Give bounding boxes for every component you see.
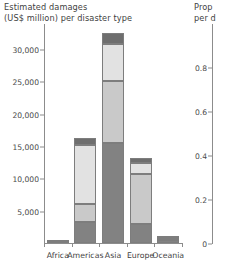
x-label-africa: Africa (47, 251, 69, 260)
bar-segment-asia-2[interactable] (102, 81, 124, 144)
bar-asia[interactable] (102, 33, 124, 243)
x-tick-mark (99, 243, 100, 247)
right-y-axis-line (212, 24, 213, 244)
left-plot-area: 5,00010,00015,00020,00025,00030,000 (44, 24, 182, 244)
left-title-line2: (US$ million) per disaster type (4, 13, 132, 23)
x-label-asia: Asia (105, 251, 121, 260)
x-axis-line (44, 243, 182, 244)
x-tick-mark (182, 243, 183, 247)
x-label-europe: Europe (127, 251, 154, 260)
y-tick-mark (40, 179, 44, 180)
x-tick-mark (44, 243, 45, 247)
right-title-line1: Prop (194, 2, 213, 12)
proportion-panel-cropped: Prop per d 00.20.40.60.8 (186, 0, 237, 270)
y-tick-mark (40, 82, 44, 83)
bar-segment-asia-1[interactable] (102, 143, 124, 243)
right-y-tick-mark (208, 156, 212, 157)
bar-africa[interactable] (47, 241, 69, 243)
bar-segment-europe-3[interactable] (130, 163, 152, 174)
right-chart-title: Prop per d (194, 2, 216, 24)
x-label-americas: Americas (67, 251, 103, 260)
bar-segment-europe-1[interactable] (130, 224, 152, 243)
right-y-tick-mark (208, 200, 212, 201)
bar-segment-americas-3[interactable] (74, 145, 96, 204)
bar-segment-africa-4[interactable] (47, 240, 69, 242)
estimated-damages-panel: Estimated damages (US$ million) per disa… (0, 0, 186, 270)
y-tick-mark (40, 146, 44, 147)
bar-segment-asia-3[interactable] (102, 44, 124, 80)
bar-oceania[interactable] (157, 238, 179, 243)
y-axis-line (44, 24, 45, 244)
right-y-tick-mark (208, 244, 212, 245)
bar-segment-americas-4[interactable] (74, 138, 96, 144)
right-y-tick-mark (208, 68, 212, 69)
x-label-oceania: Oceania (152, 251, 184, 260)
x-tick-mark (72, 243, 73, 247)
bar-segment-americas-1[interactable] (74, 222, 96, 243)
x-tick-mark (154, 243, 155, 247)
bar-segment-europe-4[interactable] (130, 158, 152, 163)
bar-segment-oceania-4[interactable] (157, 236, 179, 238)
x-tick-mark (127, 243, 128, 247)
y-tick-mark (40, 49, 44, 50)
left-title-line1: Estimated damages (4, 2, 87, 12)
bar-segment-americas-2[interactable] (74, 204, 96, 222)
right-y-tick-mark (208, 112, 212, 113)
bar-segment-europe-2[interactable] (130, 174, 152, 224)
bar-segment-oceania-1[interactable] (157, 240, 179, 243)
right-plot-area: 00.20.40.60.8 (212, 24, 237, 244)
bar-europe[interactable] (130, 158, 152, 243)
left-chart-title: Estimated damages (US$ million) per disa… (4, 2, 132, 24)
y-tick-mark (40, 211, 44, 212)
bar-americas[interactable] (74, 138, 96, 243)
bar-segment-asia-4[interactable] (102, 33, 124, 45)
y-tick-mark (40, 114, 44, 115)
right-title-line2: per d (194, 13, 216, 23)
